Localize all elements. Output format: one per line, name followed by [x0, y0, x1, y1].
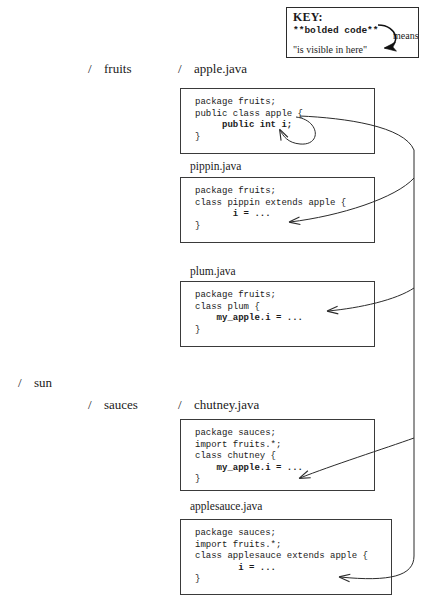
- slash-glyph: /: [88, 61, 104, 77]
- code-line: class pippin extends apple {: [195, 198, 374, 210]
- key-bolded-code-sample: **bolded code**: [293, 25, 379, 36]
- dir-label-sauces: /sauces: [88, 397, 138, 413]
- code-line: class chutney {: [195, 451, 374, 463]
- file-header-chutney-java: /chutney.java: [178, 397, 259, 413]
- key-title: KEY:: [293, 10, 323, 25]
- code-line-highlighted: my_apple.i = ...: [195, 463, 374, 475]
- slash-glyph: /: [178, 397, 194, 413]
- code-line: package fruits;: [195, 290, 374, 302]
- code-line: import fruits.*;: [195, 540, 391, 552]
- key-means-label: means: [393, 30, 419, 41]
- code-line-highlighted: my_apple.i = ...: [195, 313, 374, 325]
- dir-label-fruits: /fruits: [88, 61, 131, 77]
- code-line: }: [195, 132, 374, 144]
- code-box-apple-java: package fruits; public class apple { pub…: [180, 88, 375, 154]
- code-line: import fruits.*;: [195, 440, 374, 452]
- slash-glyph: /: [178, 61, 194, 77]
- code-line: }: [195, 574, 391, 586]
- file-label-pippin-java: pippin.java: [190, 160, 241, 172]
- code-line: public class apple {: [195, 109, 374, 121]
- file-label-applesauce-java: applesauce.java: [190, 500, 262, 512]
- code-line: package sauces;: [195, 428, 374, 440]
- code-line: }: [195, 221, 374, 233]
- code-line: }: [195, 474, 374, 486]
- file-header-apple-java: /apple.java: [178, 61, 247, 77]
- dir-name-sun: sun: [34, 375, 52, 390]
- diagram-canvas: KEY: **bolded code** "is visible in here…: [0, 0, 441, 616]
- dir-label-sun: /sun: [18, 375, 52, 391]
- code-line: package fruits;: [195, 97, 374, 109]
- file-name-apple-java: apple.java: [194, 61, 247, 76]
- file-name-chutney-java: chutney.java: [194, 397, 259, 412]
- code-box-plum-java: package fruits; class plum { my_apple.i …: [180, 281, 375, 347]
- code-line: class plum {: [195, 302, 374, 314]
- dir-name-fruits: fruits: [104, 61, 131, 76]
- slash-glyph: /: [88, 397, 104, 413]
- code-box-pippin-java: package fruits; class pippin extends app…: [180, 177, 375, 243]
- file-label-plum-java: plum.java: [190, 265, 236, 277]
- code-line-highlighted: i = ...: [195, 563, 391, 575]
- code-line: package fruits;: [195, 186, 374, 198]
- code-box-applesauce-java: package sauces; import fruits.*; class a…: [180, 519, 392, 595]
- code-line: class applesauce extends apple {: [195, 551, 391, 563]
- dir-name-sauces: sauces: [104, 397, 138, 412]
- slash-glyph: /: [18, 375, 34, 391]
- code-line: package sauces;: [195, 528, 391, 540]
- key-visible-in-here-text: "is visible in here": [293, 44, 367, 55]
- code-line-highlighted: public int i;: [195, 120, 374, 132]
- code-box-chutney-java: package sauces; import fruits.*; class c…: [180, 419, 375, 491]
- code-line: }: [195, 325, 374, 337]
- code-line-highlighted: i = ...: [195, 209, 374, 221]
